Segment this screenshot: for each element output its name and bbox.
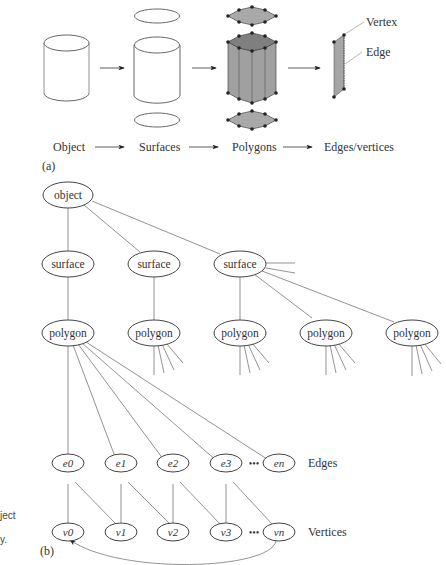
svg-text:v1: v1 — [116, 526, 126, 538]
polygon-mesh-icon — [226, 5, 278, 131]
node-polygon[interactable]: polygon — [42, 320, 94, 346]
node-vertex[interactable]: v0 — [52, 523, 84, 541]
svg-text:e2: e2 — [168, 457, 179, 469]
node-edge[interactable]: e2 — [157, 454, 189, 472]
node-polygon[interactable]: polygon — [300, 320, 352, 346]
svg-text:object: object — [54, 189, 83, 202]
node-object[interactable]: object — [43, 182, 93, 208]
svg-text:v0: v0 — [63, 526, 74, 538]
node-vertex[interactable]: v3 — [210, 523, 242, 541]
face-edge-vertex-icon — [332, 22, 364, 99]
svg-text:polygon: polygon — [135, 327, 173, 340]
svg-text:surface: surface — [223, 258, 256, 270]
side-text-fragment: y. — [0, 534, 7, 545]
vertices-ellipsis: ••• — [249, 527, 260, 538]
svg-text:e0: e0 — [63, 457, 74, 469]
node-polygon[interactable]: polygon — [214, 320, 266, 346]
part-b-label: (b) — [40, 544, 54, 558]
svg-text:en: en — [274, 457, 285, 469]
stage-edges-vertices-label: Edges/vertices — [324, 140, 394, 154]
part-a-label: (a) — [42, 159, 55, 173]
cylinder-object-icon — [44, 35, 89, 101]
node-surface[interactable]: surface — [214, 251, 266, 277]
node-vertex[interactable]: vn — [263, 523, 295, 541]
node-vertex[interactable]: v2 — [157, 523, 189, 541]
vertex-callout: Vertex — [366, 15, 397, 29]
stage-object-label: Object — [53, 140, 86, 154]
node-surface[interactable]: surface — [128, 251, 180, 277]
node-polygon[interactable]: polygon — [386, 320, 438, 346]
cylinder-surfaces-icon — [134, 9, 180, 127]
svg-text:v3: v3 — [221, 526, 232, 538]
svg-text:vn: vn — [274, 526, 285, 538]
svg-text:e3: e3 — [221, 457, 232, 469]
node-edge[interactable]: e0 — [52, 454, 84, 472]
node-vertex[interactable]: v1 — [105, 523, 137, 541]
vertices-row-label: Vertices — [308, 525, 347, 539]
modeling-hierarchy-diagram: Vertex Edge Object Surfaces Polygons Edg… — [0, 0, 446, 565]
svg-text:polygon: polygon — [221, 327, 259, 340]
side-text-fragment: ject — [0, 510, 16, 521]
node-surface[interactable]: surface — [42, 251, 94, 277]
edge-callout: Edge — [366, 45, 391, 59]
svg-text:surface: surface — [137, 258, 170, 270]
svg-text:polygon: polygon — [49, 327, 87, 340]
node-edge[interactable]: en — [263, 454, 295, 472]
stage-surfaces-label: Surfaces — [139, 140, 181, 154]
stage-polygons-label: Polygons — [232, 140, 277, 154]
node-polygon[interactable]: polygon — [128, 320, 180, 346]
node-edge[interactable]: e1 — [105, 454, 137, 472]
svg-text:polygon: polygon — [393, 327, 431, 340]
edges-ellipsis: ••• — [249, 458, 260, 469]
node-edge[interactable]: e3 — [210, 454, 242, 472]
svg-text:e1: e1 — [116, 457, 126, 469]
svg-text:polygon: polygon — [307, 327, 345, 340]
edges-row-label: Edges — [308, 456, 338, 470]
svg-text:surface: surface — [51, 258, 84, 270]
svg-text:v2: v2 — [168, 526, 179, 538]
